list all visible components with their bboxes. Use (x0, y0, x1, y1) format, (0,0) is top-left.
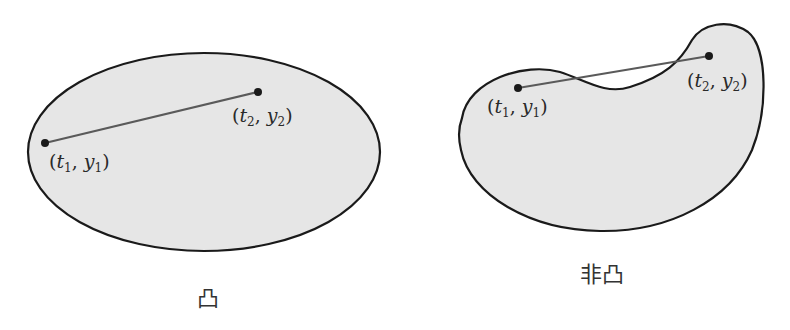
nonconvex-bean (459, 24, 763, 231)
convex-point-2 (254, 88, 262, 96)
convex-caption: 凸 (197, 286, 219, 311)
nonconvex-set: (t1, y1) (t2, y2) 非凸 (459, 24, 763, 287)
convex-point-1 (41, 139, 49, 147)
convexity-diagram: (t1, y1) (t2, y2) 凸 (t1, y1) (t2, y2) 非凸 (0, 0, 790, 330)
nonconvex-point-2 (705, 52, 713, 60)
nonconvex-caption: 非凸 (580, 262, 624, 287)
convex-set: (t1, y1) (t2, y2) 凸 (28, 53, 380, 311)
nonconvex-point-1 (514, 84, 522, 92)
